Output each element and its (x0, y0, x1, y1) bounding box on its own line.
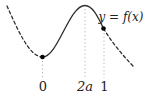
x-tick-label-1: 1 (100, 79, 108, 94)
x-tick-label-0: 0 (39, 79, 47, 94)
curve-dashed-left-segment (7, 6, 43, 57)
function-graph-figure: y = f(x) 0 2a 1 (0, 0, 144, 97)
point-marker-at-1 (101, 26, 106, 31)
function-label: y = f(x) (97, 10, 143, 24)
curve-canvas: y = f(x) 0 2a 1 (0, 0, 144, 97)
curve-solid-middle-segment (43, 6, 104, 58)
curve-dashed-right-segment (104, 29, 134, 67)
point-marker-at-0 (40, 55, 45, 60)
x-tick-label-2a: 2a (76, 79, 93, 94)
